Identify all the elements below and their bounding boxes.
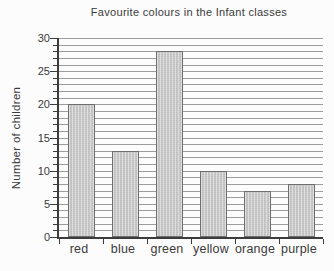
y-axis-tick bbox=[53, 58, 57, 59]
y-axis-tick bbox=[53, 224, 57, 225]
x-category-label-blue: blue bbox=[101, 242, 145, 256]
bar-green bbox=[156, 51, 183, 237]
bar-chart-figure: Favourite colours in the Infant classes … bbox=[0, 0, 334, 271]
y-tick-label: 25 bbox=[0, 64, 50, 78]
gridline bbox=[59, 217, 323, 218]
gridline bbox=[59, 210, 323, 211]
bar-blue bbox=[112, 151, 139, 237]
plot-area bbox=[57, 38, 323, 239]
gridline bbox=[59, 65, 323, 66]
y-axis-tick bbox=[53, 84, 57, 85]
gridline bbox=[59, 191, 323, 192]
gridline bbox=[59, 131, 323, 132]
y-tick-label: 5 bbox=[0, 197, 50, 211]
gridline bbox=[59, 58, 323, 59]
y-axis-tick bbox=[53, 118, 57, 119]
gridline bbox=[59, 45, 323, 46]
gridline bbox=[59, 164, 323, 165]
y-axis-tick bbox=[53, 91, 57, 92]
y-axis-tick bbox=[50, 138, 57, 139]
bar-red bbox=[68, 104, 95, 237]
bar-orange bbox=[244, 191, 271, 237]
x-category-label-orange: orange bbox=[233, 242, 277, 256]
gridline bbox=[59, 144, 323, 145]
gridline bbox=[59, 71, 323, 72]
bar-yellow bbox=[200, 171, 227, 237]
x-axis-tick bbox=[323, 239, 324, 244]
gridline bbox=[59, 91, 323, 92]
gridline bbox=[59, 78, 323, 79]
gridline bbox=[59, 138, 323, 139]
x-category-label-green: green bbox=[145, 242, 189, 256]
y-axis-tick bbox=[53, 45, 57, 46]
gridline bbox=[59, 177, 323, 178]
y-axis-tick bbox=[50, 71, 57, 72]
y-axis-tick bbox=[53, 124, 57, 125]
y-axis-tick bbox=[53, 217, 57, 218]
y-axis-tick bbox=[53, 98, 57, 99]
gridline bbox=[59, 118, 323, 119]
y-axis-tick bbox=[50, 38, 57, 39]
gridline bbox=[59, 98, 323, 99]
bar-purple bbox=[288, 184, 315, 237]
y-axis-tick bbox=[53, 191, 57, 192]
y-axis-tick bbox=[53, 184, 57, 185]
y-axis-tick bbox=[53, 230, 57, 231]
gridline bbox=[59, 224, 323, 225]
x-category-label-red: red bbox=[57, 242, 101, 256]
gridline bbox=[59, 157, 323, 158]
y-tick-label: 10 bbox=[0, 164, 50, 178]
gridline bbox=[59, 104, 323, 105]
gridline bbox=[59, 197, 323, 198]
y-axis-tick bbox=[53, 144, 57, 145]
y-axis-tick bbox=[53, 177, 57, 178]
y-tick-label: 15 bbox=[0, 131, 50, 145]
gridline bbox=[59, 124, 323, 125]
gridline bbox=[59, 38, 323, 39]
gridline bbox=[59, 171, 323, 172]
y-axis-tick bbox=[53, 151, 57, 152]
x-category-label-purple: purple bbox=[277, 242, 321, 256]
y-tick-label: 0 bbox=[0, 230, 50, 244]
y-axis-tick bbox=[53, 51, 57, 52]
gridline bbox=[59, 230, 323, 231]
gridline bbox=[59, 84, 323, 85]
gridline bbox=[59, 111, 323, 112]
y-tick-label: 20 bbox=[0, 97, 50, 111]
y-axis-tick bbox=[53, 197, 57, 198]
y-axis-tick bbox=[50, 204, 57, 205]
gridline bbox=[59, 184, 323, 185]
y-axis-tick bbox=[53, 78, 57, 79]
y-axis-tick bbox=[53, 131, 57, 132]
y-axis-tick bbox=[53, 157, 57, 158]
chart-title: Favourite colours in the Infant classes bbox=[57, 6, 321, 18]
x-category-label-yellow: yellow bbox=[189, 242, 233, 256]
y-axis-tick bbox=[53, 65, 57, 66]
gridline bbox=[59, 51, 323, 52]
gridline bbox=[59, 151, 323, 152]
y-axis-tick bbox=[50, 104, 57, 105]
y-axis-tick bbox=[50, 171, 57, 172]
y-tick-label: 30 bbox=[0, 31, 50, 45]
gridline bbox=[59, 204, 323, 205]
y-axis-tick bbox=[50, 237, 57, 238]
y-axis-tick bbox=[53, 164, 57, 165]
y-axis-tick bbox=[53, 111, 57, 112]
y-axis-tick bbox=[53, 210, 57, 211]
